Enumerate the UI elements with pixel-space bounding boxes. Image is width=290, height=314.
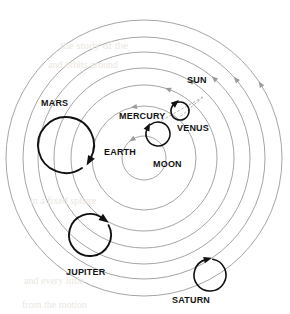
orbit-ring-ring-6 bbox=[23, 37, 265, 279]
jupiter-epicycle-arrow bbox=[98, 214, 108, 223]
label-earth: EARTH bbox=[104, 148, 136, 157]
mercury-epicycle-arrow bbox=[144, 123, 150, 132]
label-venus: VENUS bbox=[177, 124, 209, 133]
orbit-direction-arrow bbox=[165, 88, 172, 93]
orbit-direction-arrow bbox=[129, 136, 136, 141]
orbit-direction-arrow bbox=[131, 104, 138, 109]
label-sun: SUN bbox=[187, 76, 207, 85]
orbit-ring-moon-orbit bbox=[122, 136, 166, 180]
saturn-epicycle bbox=[194, 259, 226, 291]
orbit-ring-saturn-orbit bbox=[6, 20, 282, 296]
mars-epicycle bbox=[38, 117, 94, 173]
label-saturn: SATURN bbox=[172, 296, 210, 305]
orbit-rings-group bbox=[6, 20, 282, 296]
label-jupiter: JUPITER bbox=[66, 268, 105, 277]
orbit-diagram: the study of theand orbits aroundin a fi… bbox=[0, 0, 290, 314]
label-moon: MOON bbox=[153, 160, 182, 169]
orbit-direction-arrow bbox=[259, 81, 265, 88]
mars-epicycle-arrow bbox=[87, 155, 95, 166]
saturn-epicycle-arrow bbox=[203, 257, 212, 263]
label-mars: MARS bbox=[41, 99, 68, 108]
sun-link-venus bbox=[180, 97, 203, 117]
label-mercury: MERCURY bbox=[119, 112, 166, 121]
orbit-canvas bbox=[0, 0, 290, 314]
orbit-ring-sun-orbit bbox=[92, 106, 196, 210]
orbit-ring-ring-4 bbox=[54, 68, 234, 248]
